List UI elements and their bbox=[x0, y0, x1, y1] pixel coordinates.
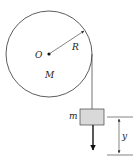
center-label: O bbox=[35, 50, 43, 60]
hanging-block bbox=[80, 109, 104, 125]
disk-mass-label: M bbox=[44, 70, 55, 80]
pulley-diagram: O R M m y bbox=[0, 0, 139, 164]
displacement-label: y bbox=[121, 131, 128, 141]
radius-label: R bbox=[71, 42, 79, 52]
block-mass-label: m bbox=[69, 111, 78, 121]
